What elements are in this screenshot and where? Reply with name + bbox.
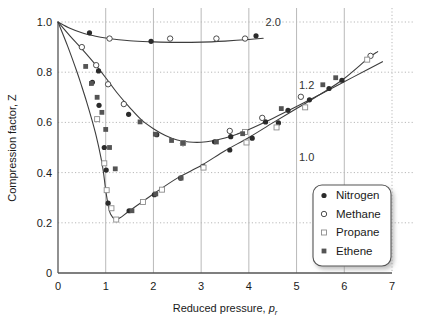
y-tick-label-0.6: 0.6 (37, 116, 52, 128)
marker-nitrogen (148, 39, 153, 44)
marker-propane (114, 217, 119, 222)
y-tick-label-0: 0 (46, 267, 52, 279)
marker-propane (95, 117, 100, 122)
marker-nitrogen (102, 145, 107, 150)
legend-label-ethene: Ethene (336, 245, 372, 257)
marker-nitrogen (253, 33, 258, 38)
marker-propane (365, 57, 370, 62)
x-tick-label-0: 0 (55, 280, 61, 292)
marker-methane (242, 36, 247, 41)
legend-label-methane: Methane (336, 208, 381, 220)
y-tick-label-0.2: 0.2 (37, 217, 52, 229)
marker-nitrogen (96, 68, 101, 73)
y-tick-label-0.8: 0.8 (37, 66, 52, 78)
chart-figure: 01234567 00.20.40.60.81.0 2.01.21.0 Redu… (0, 0, 422, 327)
marker-methane (105, 82, 110, 87)
marker-nitrogen (285, 108, 290, 113)
marker-nitrogen (96, 103, 101, 108)
marker-methane (298, 94, 303, 99)
marker-nitrogen (227, 147, 232, 152)
marker-nitrogen (104, 167, 109, 172)
x-tick-label-3: 3 (198, 280, 204, 292)
legend-label-nitrogen: Nitrogen (336, 189, 379, 201)
marker-nitrogen (307, 97, 312, 102)
marker-propane (109, 206, 114, 211)
x-tick-label-1: 1 (103, 280, 109, 292)
marker-ethene (99, 110, 104, 115)
marker-ethene (95, 95, 100, 100)
legend-marker-filled-circle (321, 193, 326, 198)
marker-ethene (169, 138, 174, 143)
marker-ethene (279, 106, 284, 111)
marker-ethene (214, 140, 219, 145)
marker-methane (121, 101, 126, 106)
chart-legend: NitrogenMethanePropaneEthene (313, 185, 391, 266)
legend-marker-filled-square (322, 249, 327, 254)
marker-propane (244, 140, 249, 145)
marker-ethene (83, 64, 88, 69)
marker-propane (140, 199, 145, 204)
marker-ethene (130, 208, 135, 213)
marker-ethene (113, 166, 118, 171)
marker-ethene (153, 192, 158, 197)
marker-methane (227, 128, 232, 133)
marker-propane (201, 165, 206, 170)
curve-annotation-2-0: 2.0 (266, 16, 281, 28)
marker-propane (160, 187, 165, 192)
x-tick-label-7: 7 (389, 280, 395, 292)
marker-nitrogen (339, 78, 344, 83)
marker-nitrogen (228, 134, 233, 139)
marker-propane (303, 105, 308, 110)
marker-methane (107, 36, 112, 41)
curve-annotation-1-0: 1.0 (299, 151, 314, 163)
marker-methane (79, 44, 84, 49)
marker-methane (260, 115, 265, 120)
marker-nitrogen (250, 136, 255, 141)
marker-ethene (138, 119, 143, 124)
marker-propane (102, 161, 107, 166)
marker-methane (167, 36, 172, 41)
x-tick-label-5: 5 (294, 280, 300, 292)
marker-nitrogen (126, 112, 131, 117)
legend-label-propane: Propane (336, 226, 379, 238)
compression-factor-chart: 01234567 00.20.40.60.81.0 2.01.21.0 Redu… (0, 0, 422, 327)
marker-ethene (107, 145, 112, 150)
y-tick-label-1.0: 1.0 (37, 16, 52, 28)
marker-propane (104, 188, 109, 193)
x-tick-label-4: 4 (246, 280, 252, 292)
marker-propane (274, 125, 279, 130)
marker-ethene (333, 75, 338, 80)
marker-ethene (179, 176, 184, 181)
x-tick-label-6: 6 (341, 280, 347, 292)
x-tick-label-2: 2 (150, 280, 156, 292)
marker-nitrogen (106, 201, 111, 206)
marker-methane (93, 62, 98, 67)
marker-nitrogen (87, 30, 92, 35)
legend-marker-open-square (322, 230, 327, 235)
chart-background (0, 0, 422, 327)
curve-annotation-1-2: 1.2 (299, 79, 314, 91)
marker-ethene (153, 132, 158, 137)
marker-ethene (103, 127, 108, 132)
y-axis-title: Compression factor, Z (6, 94, 18, 202)
y-tick-label-0.4: 0.4 (37, 167, 52, 179)
marker-ethene (320, 82, 325, 87)
marker-ethene (181, 141, 186, 146)
marker-ethene (89, 81, 94, 86)
marker-ethene (240, 131, 245, 136)
legend-marker-open-circle (321, 211, 326, 216)
marker-nitrogen (326, 86, 331, 91)
marker-methane (214, 36, 219, 41)
